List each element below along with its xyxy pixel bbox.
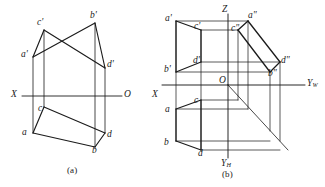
label-a-double-prime-b: a": [248, 11, 257, 21]
label-d-b: d: [198, 149, 203, 159]
side-view-edge: [248, 21, 280, 62]
yh-subscript: H: [226, 161, 230, 168]
diagram-b-geometry: [162, 14, 305, 158]
label-c-b: c: [194, 96, 198, 106]
figure-container: a' c' b' d' c a d b X O a' c' d' b' c a …: [0, 0, 325, 187]
top-view-edge: [44, 107, 105, 133]
label-d-double-prime-b: d": [281, 56, 290, 66]
label-a-a: a: [22, 128, 27, 138]
caption-b: (b): [222, 170, 233, 179]
front-view-edge: [33, 30, 44, 57]
axis-label-o-a: O: [124, 90, 131, 100]
label-b-b: b: [164, 138, 169, 148]
label-a-prime-b: a': [165, 14, 172, 24]
front-view-edge: [33, 23, 95, 57]
label-d-prime-b: d': [193, 56, 200, 66]
axis-label-yh-b: YH: [221, 159, 231, 169]
label-b-a: b: [92, 146, 97, 156]
projection-drawing-svg: [0, 0, 325, 187]
axis-label-z-b: Z: [222, 5, 227, 15]
caption-a: (a): [67, 166, 77, 175]
bisector-line: [228, 85, 288, 150]
label-c-a: c: [38, 104, 42, 114]
axis-label-x-a: X: [11, 90, 17, 100]
axis-label-yw-b: YW: [307, 79, 318, 89]
label-d-prime-a: d': [107, 60, 114, 70]
axis-label-x-b: X: [152, 90, 158, 100]
label-b-prime-a: b': [90, 11, 97, 21]
yw-subscript: W: [312, 81, 317, 88]
front-view-edge: [44, 30, 105, 68]
label-a-b: a: [165, 105, 170, 115]
axis-label-o-b: O: [219, 76, 226, 86]
label-c-prime-b: c': [194, 22, 200, 32]
side-view-edge: [238, 30, 270, 72]
label-b-double-prime-b: b": [268, 69, 277, 79]
label-c-double-prime-b: c": [231, 24, 239, 34]
side-view-edge: [238, 21, 248, 30]
label-d-a: d: [107, 130, 112, 140]
top-view-edge: [33, 133, 95, 147]
label-c-prime-a: c': [37, 18, 43, 28]
label-b-prime-b: b': [164, 65, 171, 75]
front-view-edge: [95, 23, 105, 68]
label-a-prime-a: a': [21, 50, 28, 60]
